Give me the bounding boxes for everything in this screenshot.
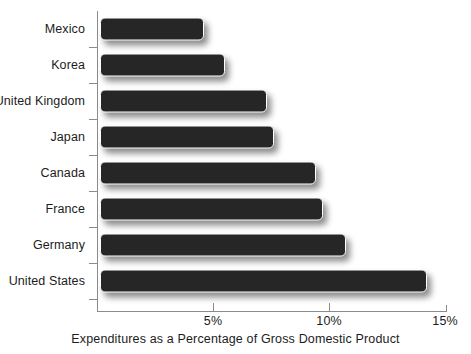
bar-row: United Kingdom xyxy=(0,83,471,119)
category-label: United States xyxy=(9,274,85,288)
x-axis-tick-label: 10% xyxy=(316,314,341,328)
category-label: Japan xyxy=(50,130,85,144)
bar-wrapper xyxy=(100,54,225,77)
category-label: Germany xyxy=(33,238,85,252)
bar xyxy=(100,126,274,149)
bar xyxy=(100,162,316,185)
bar-wrapper xyxy=(100,18,204,41)
bar xyxy=(100,18,204,41)
x-axis-tick-label: 15% xyxy=(432,314,457,328)
category-label: Canada xyxy=(41,166,85,180)
x-axis-title: Expenditures as a Percentage of Gross Do… xyxy=(0,332,471,346)
x-axis-tick xyxy=(213,303,214,311)
bar xyxy=(100,270,427,293)
bar xyxy=(100,234,346,257)
bar-wrapper xyxy=(100,162,316,185)
x-axis-start-cap xyxy=(97,305,98,312)
bar xyxy=(100,54,225,77)
bar-row: United States xyxy=(0,263,471,299)
x-axis-end-cap xyxy=(446,305,447,312)
bar-wrapper xyxy=(100,270,427,293)
bar-row: Korea xyxy=(0,47,471,83)
y-axis-tick xyxy=(89,299,97,300)
bar-chart: 5%10%15% MexicoKoreaUnited KingdomJapanC… xyxy=(0,0,471,354)
category-label: Korea xyxy=(51,58,85,72)
category-label: France xyxy=(45,202,85,216)
bar-row: France xyxy=(0,191,471,227)
bar-row: Germany xyxy=(0,227,471,263)
x-axis-tick xyxy=(329,303,330,311)
category-label: Mexico xyxy=(45,22,85,36)
bar-row: Canada xyxy=(0,155,471,191)
bar-row: Japan xyxy=(0,119,471,155)
bar-wrapper xyxy=(100,126,274,149)
bar xyxy=(100,198,323,221)
bar-wrapper xyxy=(100,198,323,221)
bar-wrapper xyxy=(100,90,267,113)
plot-area: 5%10%15% MexicoKoreaUnited KingdomJapanC… xyxy=(0,0,471,354)
category-label: United Kingdom xyxy=(0,94,85,108)
x-axis-tick-label: 5% xyxy=(204,314,222,328)
bar xyxy=(100,90,267,113)
bar-row: Mexico xyxy=(0,11,471,47)
x-axis-line xyxy=(97,311,447,312)
bar-wrapper xyxy=(100,234,346,257)
